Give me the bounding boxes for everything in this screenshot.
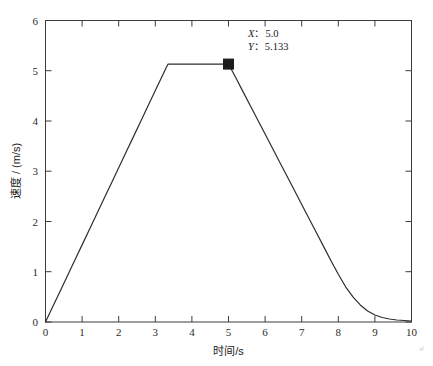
x-tick-label: 9 (372, 326, 378, 338)
x-tick-label: 10 (406, 326, 418, 338)
x-tick-label: 0 (43, 326, 49, 338)
x-tick-label: 3 (153, 326, 159, 338)
x-tick-labels: 0 1 2 3 4 5 6 7 8 9 10 (43, 326, 418, 338)
y-axis-title: 速度 / (m/s) (9, 143, 22, 199)
velocity-time-plot: 0 1 2 3 4 5 6 7 8 9 10 0 1 2 3 4 5 6 时间/… (0, 0, 433, 366)
y-tick-label: 4 (33, 115, 39, 127)
cursor-x-sep: ： (254, 28, 264, 39)
data-cursor-marker[interactable] (224, 59, 234, 69)
y-tick-label: 1 (33, 266, 39, 278)
x-tick-label: 5 (226, 326, 232, 338)
x-tick-label: 6 (262, 326, 268, 338)
corner-artifact (418, 346, 424, 351)
chart-figure: 0 1 2 3 4 5 6 7 8 9 10 0 1 2 3 4 5 6 时间/… (0, 0, 433, 366)
y-tick-label: 6 (33, 15, 39, 27)
y-tick-label: 5 (33, 65, 39, 77)
cursor-y-sep: ： (254, 41, 264, 52)
x-tick-label: 7 (299, 326, 305, 338)
cursor-y-value: 5.133 (265, 41, 289, 52)
cursor-x-value: 5.0 (265, 28, 278, 39)
y-tick-label: 0 (33, 316, 39, 328)
x-tick-label: 2 (116, 326, 122, 338)
cursor-x-annotation: X：5.0 (247, 28, 279, 39)
y-tick-label: 2 (33, 216, 39, 228)
y-tick-label: 3 (33, 165, 39, 177)
velocity-curve (46, 64, 412, 322)
y-tick-labels: 0 1 2 3 4 5 6 (33, 15, 39, 329)
cursor-y-annotation: Y：5.133 (248, 41, 288, 52)
x-tick-label: 4 (189, 326, 195, 338)
x-axis-title: 时间/s (213, 345, 244, 357)
x-tick-label: 1 (79, 326, 85, 338)
x-tick-label: 8 (336, 326, 342, 338)
